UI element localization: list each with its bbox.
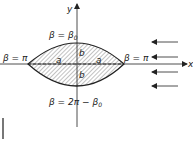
half-width-left-label: a xyxy=(56,55,62,65)
x-axis-label: x xyxy=(187,59,193,69)
half-height-top-label: b xyxy=(79,48,85,58)
y-axis-label: y xyxy=(66,4,73,14)
top-label: β = β0 xyxy=(48,30,78,41)
half-height-bottom-label: b xyxy=(79,70,85,80)
left-vertex-label: β = π xyxy=(2,53,28,63)
bottom-label: β = 2π − β0 xyxy=(48,97,102,108)
top-label-sub: 0 xyxy=(74,34,78,41)
edge-mark xyxy=(2,118,4,139)
bottom-label-main: β = 2π − β xyxy=(48,97,98,107)
top-label-main: β = β xyxy=(48,30,74,40)
bottom-label-sub: 0 xyxy=(98,101,102,108)
lens-region xyxy=(28,43,124,86)
diagram-canvas: x y β = π β = π β = β0 β = 2π − β0 a a b… xyxy=(0,0,193,141)
right-vertex-label: β = π xyxy=(123,53,149,63)
lens-diagram: x y β = π β = π β = β0 β = 2π − β0 a a b… xyxy=(0,0,193,141)
half-width-right-label: a xyxy=(96,55,102,65)
